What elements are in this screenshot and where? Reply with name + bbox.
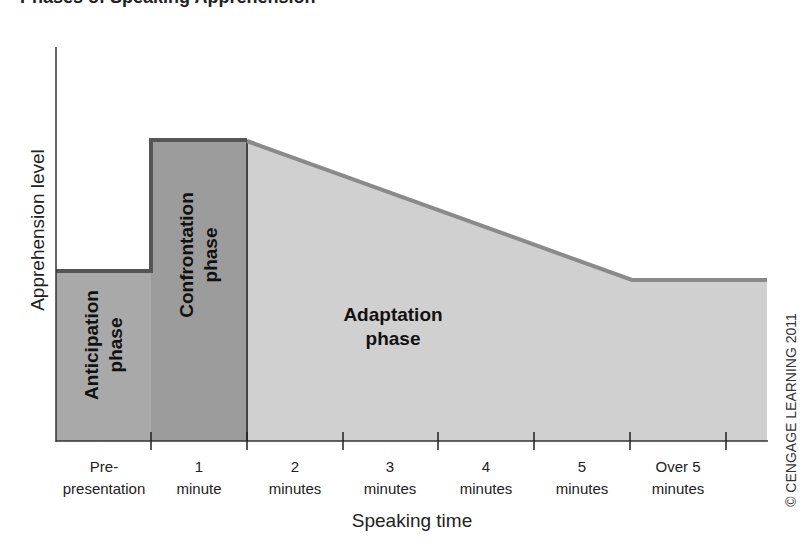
x-axis-label: Speaking time: [352, 510, 472, 532]
adaptation-phase-label: Adaptation phase: [343, 303, 442, 351]
anticipation-phase-label: Anticipation phase: [80, 290, 128, 400]
tick-label-4-minutes: 4minutes: [436, 456, 536, 500]
tick-label-over-5-minutes: Over 5minutes: [628, 456, 728, 500]
confrontation-phase-label: Confrontation phase: [175, 192, 223, 318]
tick-label-2-minutes: 2minutes: [245, 456, 345, 500]
tick-label-1-minute: 1minute: [149, 456, 249, 500]
y-axis-label: Apprehension level: [27, 149, 49, 311]
copyright-notice: © CENGAGE LEARNING 2011: [783, 313, 799, 507]
adaptation-area: [247, 141, 767, 441]
tick-label-pre-presentation: Pre-presentation: [54, 456, 154, 500]
tick-label-3-minutes: 3minutes: [340, 456, 440, 500]
tick-label-5-minutes: 5minutes: [532, 456, 632, 500]
